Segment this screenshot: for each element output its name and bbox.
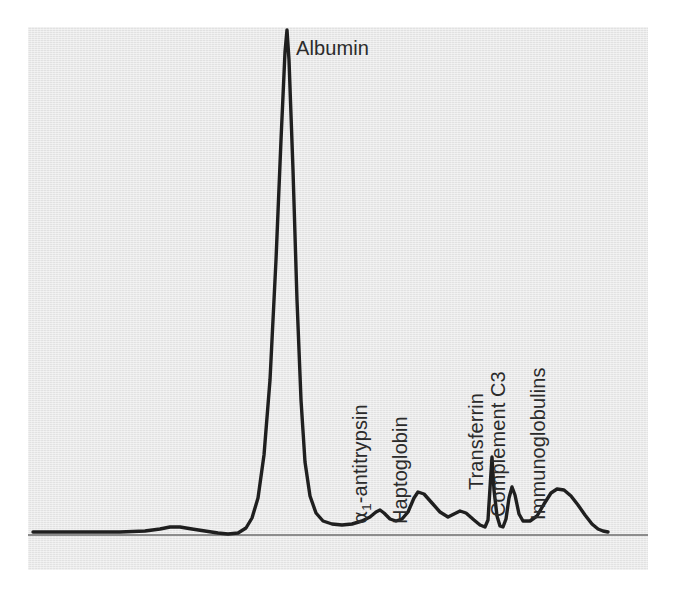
absorbance-trace	[33, 30, 608, 534]
peak-label-haptoglobin: Haptoglobin	[390, 416, 410, 524]
peak-label-albumin: Albumin	[296, 38, 369, 58]
a1-antitrypsin-suffix: -antitrypsin	[349, 404, 371, 503]
alpha-subscript-one: 1	[359, 503, 374, 510]
peak-label-a1-antitrypsin: α1-antitrypsin	[350, 404, 370, 524]
peak-label-immunoglobulins: Immunoglobulins	[528, 367, 548, 520]
greek-alpha-glyph: α	[348, 511, 372, 524]
densitometry-trace-svg	[0, 0, 674, 594]
figure-root: Albumin α1-antitrypsin Haptoglobin Trans…	[0, 0, 674, 594]
peak-label-complement-c3: Complement C3	[488, 371, 508, 517]
peak-label-transferrin: Transferrin	[466, 393, 486, 490]
